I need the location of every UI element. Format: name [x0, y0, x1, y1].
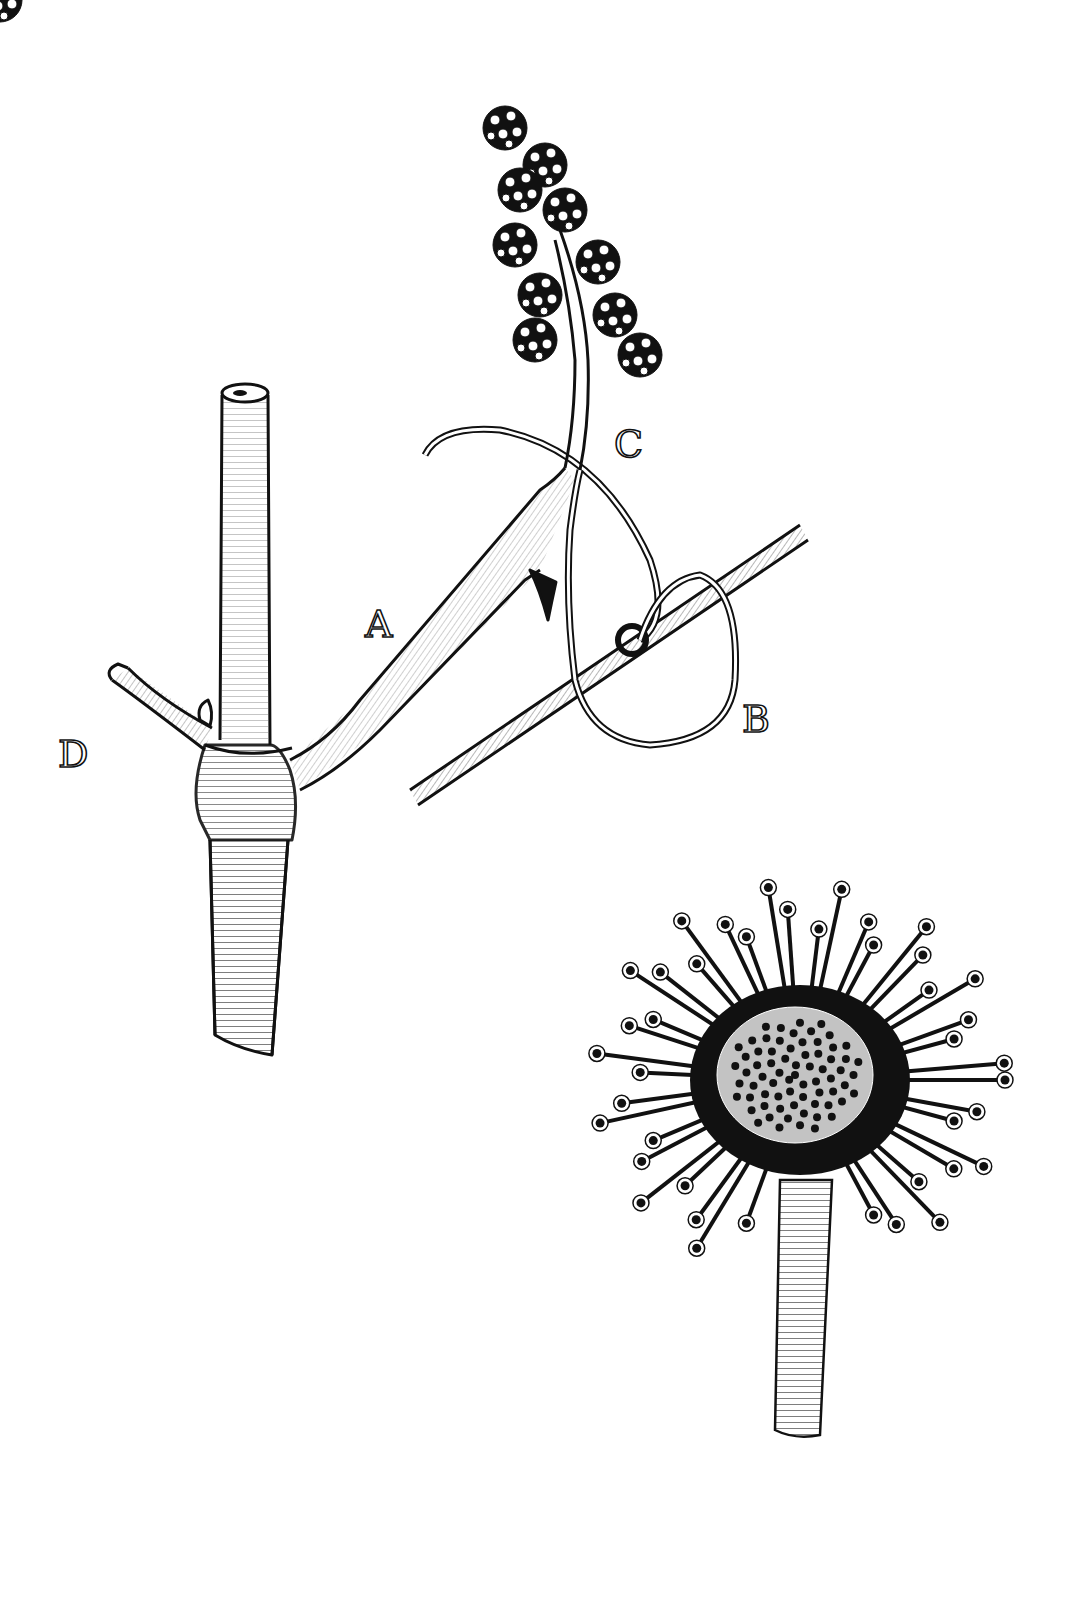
sundew-leaf-figure [589, 880, 1013, 1437]
vine-stem-figure [109, 230, 808, 1055]
label-a: A [365, 605, 392, 643]
label-b: B [742, 700, 770, 738]
label-c: C [614, 425, 643, 463]
flower-cluster [0, 0, 662, 377]
label-d: D [58, 735, 88, 773]
engraving-plate [0, 0, 1092, 1608]
